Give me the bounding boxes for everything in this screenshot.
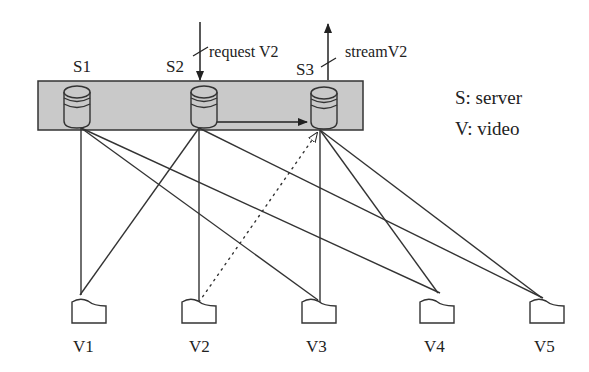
- video-file-icon: [420, 299, 454, 323]
- server-label-s3: S3: [296, 60, 314, 79]
- legend-video: V: video: [455, 118, 520, 139]
- server-label-s1: S1: [73, 57, 91, 76]
- transfer-dotted-arrow: [199, 133, 317, 302]
- server-label-s2: S2: [166, 57, 184, 76]
- server-video-diagram: S1 S2 S3 request V2 streamV2 S: server V…: [0, 0, 589, 372]
- video-file-icon: [182, 299, 216, 323]
- stream-label: streamV2: [345, 43, 407, 60]
- video-file-icon: [302, 299, 336, 323]
- video-label-v3: V3: [306, 337, 327, 356]
- video-label-v4: V4: [424, 337, 445, 356]
- database-icon: [311, 87, 337, 129]
- video-file-icon: [530, 299, 564, 323]
- request-label: request V2: [209, 43, 278, 61]
- video-label-v1: V1: [73, 337, 94, 356]
- video-label-v2: V2: [189, 337, 210, 356]
- database-icon: [64, 86, 90, 128]
- legend-server: S: server: [455, 87, 523, 108]
- database-icon: [191, 86, 217, 128]
- video-label-v5: V5: [534, 337, 555, 356]
- connection-lines: [80, 128, 543, 303]
- video-file-icon: [72, 299, 106, 323]
